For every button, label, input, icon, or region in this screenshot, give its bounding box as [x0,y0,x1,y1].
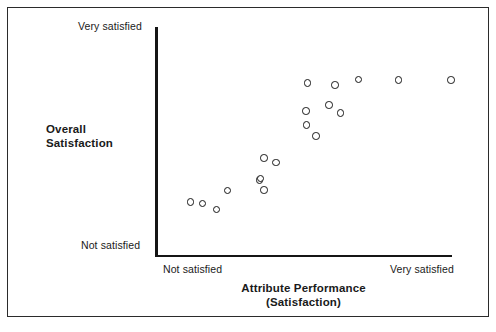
scatter-point [395,76,403,84]
x-axis-left-tick-label: Not satisfied [163,263,222,276]
scatter-point [272,159,280,167]
x-axis-right-tick-label: Very satisfied [390,263,454,276]
y-axis-bottom-tick-label: Not satisfied [81,239,140,252]
y-axis-line [155,27,158,257]
scatter-point [331,81,339,89]
y-axis-top-tick-label: Very satisfied [78,20,142,33]
scatter-point [337,109,345,117]
scatter-point [447,76,455,84]
scatter-point [260,154,268,162]
scatter-point [260,186,268,194]
x-axis-title-line-2: (Satisfaction) [155,295,452,309]
scatter-plot-figure: Very satisfied Not satisfied Overall Sat… [0,0,496,332]
y-axis-title: Overall Satisfaction [46,122,113,150]
y-axis-title-line-1: Overall [46,122,113,136]
scatter-point [302,107,310,115]
y-axis-title-line-2: Satisfaction [46,136,113,150]
x-axis-title: Attribute Performance (Satisfaction) [155,281,452,309]
x-axis-line [155,255,452,258]
scatter-point [325,101,333,109]
scatter-point [312,132,320,140]
x-axis-title-line-1: Attribute Performance [155,281,452,295]
